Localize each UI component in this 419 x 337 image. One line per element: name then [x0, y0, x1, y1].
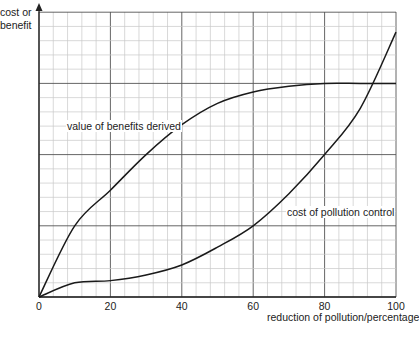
- y-axis-label-line1: cost or: [0, 6, 32, 19]
- benefit-curve: [39, 83, 396, 297]
- cost-curve: [39, 32, 396, 297]
- benefit-curve-label: value of benefits derived: [66, 120, 182, 132]
- y-axis-label-line2: benefit: [0, 19, 32, 32]
- x-tick-0: 0: [36, 300, 42, 312]
- cost-curve-label: cost of pollution control: [286, 206, 395, 218]
- x-axis-label: reduction of pollution/percentage: [267, 311, 419, 323]
- y-axis-label: cost or benefit: [0, 6, 32, 32]
- x-tick-60: 60: [247, 300, 259, 312]
- y-axis-arrow-icon: [36, 3, 43, 11]
- x-tick-40: 40: [176, 300, 188, 312]
- x-tick-20: 20: [105, 300, 117, 312]
